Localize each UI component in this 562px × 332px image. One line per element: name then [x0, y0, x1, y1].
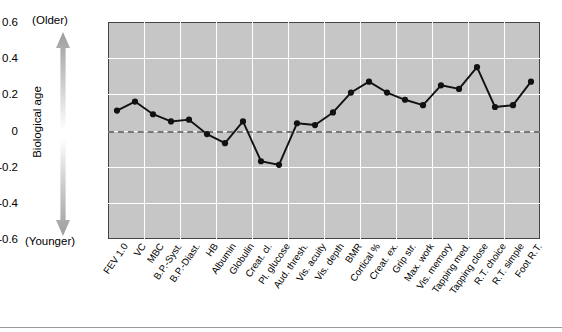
data-point [510, 102, 516, 108]
arrow-down-icon [56, 138, 70, 236]
data-point [402, 97, 408, 103]
data-point [240, 118, 246, 124]
data-point [348, 89, 354, 95]
chart-page: (Older) Biological age (Y [0, 0, 562, 332]
data-point [474, 64, 480, 70]
y-tick-label: -0.6 [0, 233, 18, 245]
y-tick-label: -0.2 [0, 161, 18, 173]
data-series [108, 22, 540, 239]
data-point [456, 86, 462, 92]
series-line [117, 67, 531, 165]
y-tick-label: 0.4 [0, 52, 18, 64]
data-point [222, 140, 228, 146]
data-point [168, 118, 174, 124]
data-point [204, 131, 210, 137]
older-label: (Older) [6, 14, 94, 26]
data-point [150, 111, 156, 117]
data-point [186, 117, 192, 123]
data-point [330, 109, 336, 115]
arrow-up-icon [56, 32, 70, 130]
x-tick-label-text: FEV 1.0 [101, 241, 130, 276]
data-point [366, 79, 372, 85]
data-point [438, 82, 444, 88]
data-point [132, 98, 138, 104]
data-point [312, 122, 318, 128]
data-point [384, 89, 390, 95]
plot-area [108, 22, 540, 239]
data-point [492, 104, 498, 110]
y-tick-label: 0.6 [0, 16, 18, 28]
y-axis-title: Biological age [31, 67, 43, 177]
y-tick-label: 0.2 [0, 88, 18, 100]
data-point [528, 79, 534, 85]
data-point [114, 108, 120, 114]
data-point [294, 120, 300, 126]
younger-label: (Younger) [6, 235, 94, 247]
data-point [420, 102, 426, 108]
x-axis-labels: FEV 1.0VCMBCB.P.-Syst.B.P.-Diast.HBAlbum… [108, 241, 540, 331]
y-tick-label: -0.4 [0, 197, 18, 209]
data-point [276, 162, 282, 168]
data-point [258, 158, 264, 164]
page-divider [0, 327, 562, 328]
y-tick-label: 0 [0, 125, 18, 137]
